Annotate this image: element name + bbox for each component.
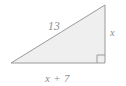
right-triangle-figure: 13 x x + 7 [0,0,126,86]
base-label: x + 7 [45,73,70,84]
triangle-shape [11,5,105,63]
hypotenuse-label: 13 [48,21,60,33]
vertical-leg-label: x [110,28,115,39]
